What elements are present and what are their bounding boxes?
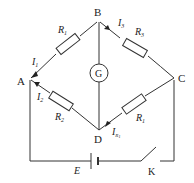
resistor-r1 <box>56 33 80 54</box>
switch-k <box>141 147 156 161</box>
wire-r1-b <box>80 22 97 36</box>
r1-label: R1 <box>57 24 67 36</box>
i1-label: I1 <box>31 56 38 68</box>
r3-label: R3 <box>134 26 144 38</box>
wire-switch-c <box>160 80 174 161</box>
wire-d-rx <box>99 113 122 130</box>
resistor-r2 <box>49 91 74 111</box>
wire-a-r2 <box>31 80 50 93</box>
galvanometer-label: G <box>95 68 102 79</box>
i3-label: I3 <box>117 17 124 29</box>
wheatstone-bridge-diagram: A B C D G R1 R3 R2 R1 I1 I3 I2 IR1 E K <box>0 0 194 183</box>
resistor-r3 <box>123 39 148 58</box>
node-d-label: D <box>94 133 102 145</box>
wire-rx-c <box>145 78 174 96</box>
r2-label: R2 <box>54 111 64 123</box>
wire-r3-c <box>148 56 174 78</box>
node-c-label: C <box>178 72 185 84</box>
resistor-rx <box>122 94 146 114</box>
node-b-label: B <box>94 6 101 18</box>
rx-label: R1 <box>135 112 145 124</box>
irx-label: IR1 <box>111 126 120 139</box>
switch-label: K <box>148 166 156 177</box>
arrow-i2-icon <box>34 82 40 87</box>
wire-r2-d <box>72 108 99 130</box>
battery-label: E <box>73 165 80 176</box>
node-a-label: A <box>17 75 25 87</box>
i2-label: I2 <box>36 91 43 103</box>
